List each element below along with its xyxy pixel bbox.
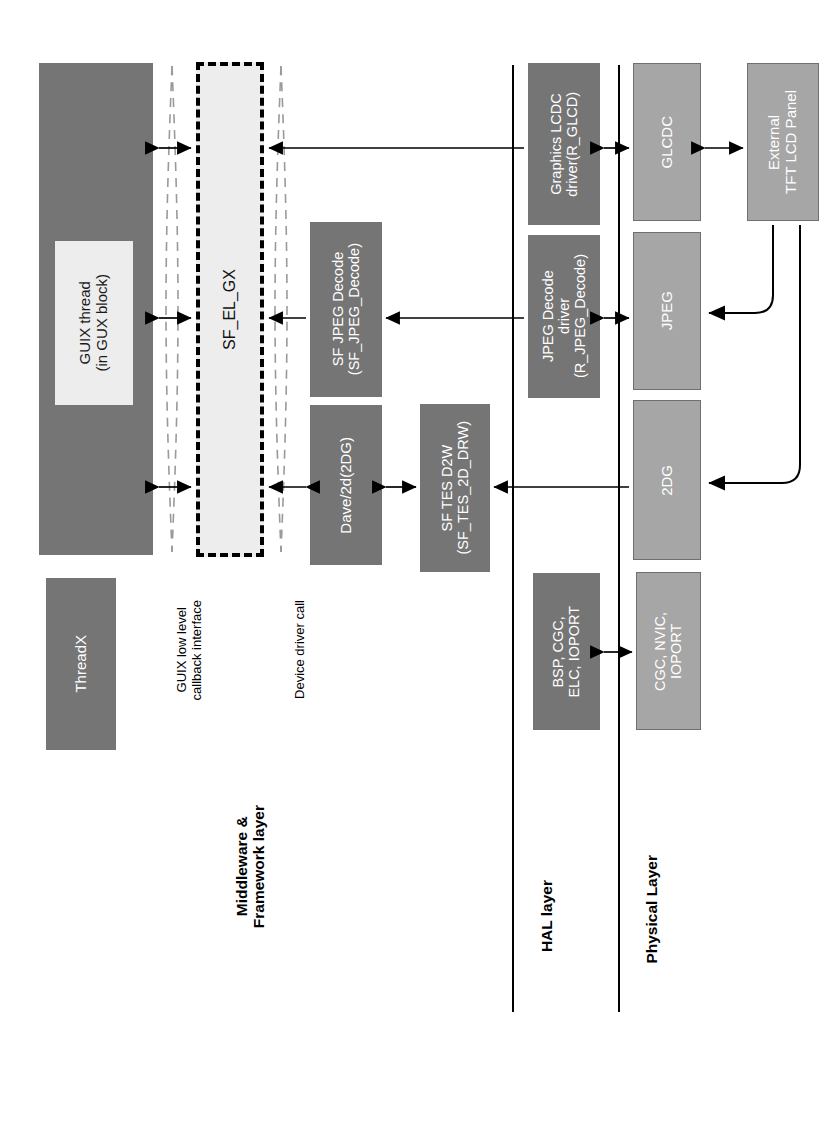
label-layer-physical: Physical Layer	[632, 855, 672, 1015]
arrow-tft-panel-to-jpeg	[709, 225, 773, 313]
block-bsp-cgc-elc-ioport: BSP, CGC, ELC, IOPORT	[533, 573, 600, 730]
block-sf-el-gx-labelwrap: SF_EL_GX	[196, 62, 264, 557]
block-sf-tes-d2w: SF TES D2W (SF_TES_2D_DRW)	[420, 404, 490, 572]
block-glcdc-label: GLCDC	[659, 116, 676, 169]
block-sf-jpeg-decode-label: SF JPEG Decode (SF_JPEG_Decode)	[330, 243, 362, 375]
block-2dg: 2DG	[633, 400, 701, 560]
block-graphics-lcdc-driver: Graphics LCDC driver(R_GLCD)	[528, 63, 600, 225]
block-jpeg: JPEG	[633, 232, 701, 390]
architecture-diagram: GUIX GUIX thread (in GUX block) SF_EL_GX…	[0, 0, 839, 1142]
block-graphics-lcdc-driver-label: Graphics LCDC driver(R_GLCD)	[548, 92, 580, 197]
block-external-tft-lcd-panel: External TFT LCD Panel	[747, 63, 819, 221]
block-cgc-nvic-ioport: CGC, NVIC, IOPORT	[636, 572, 701, 730]
block-guix-thread-label: GUIX thread (in GUX block)	[77, 274, 111, 372]
block-cgc-nvic-ioport-label: CGC, NVIC, IOPORT	[652, 612, 684, 691]
block-guix-thread: GUIX thread (in GUX block)	[55, 241, 133, 405]
divider-physical	[618, 65, 620, 1012]
block-sf-tes-d2w-label: SF TES D2W (SF_TES_2D_DRW)	[439, 421, 471, 554]
block-external-tft-lcd-panel-label: External TFT LCD Panel	[766, 90, 800, 194]
block-glcdc: GLCDC	[633, 63, 701, 221]
divider-hal	[512, 65, 514, 1012]
label-layer-hal: HAL layer	[527, 880, 567, 1015]
block-dave2d-label: Dave/2d(2DG)	[338, 437, 355, 534]
label-layer-middleware: Middleware & Framework layer	[210, 805, 290, 1015]
block-jpeg-decode-driver: JPEG Decode driver (R_JPEG_Decode)	[528, 235, 600, 398]
block-threadx-label: ThreadX	[73, 635, 90, 693]
block-2dg-label: 2DG	[659, 465, 676, 496]
block-guix-label: GUIX	[160, 291, 177, 328]
block-jpeg-label: JPEG	[659, 291, 676, 330]
arrow-tft-panel-to-2dg	[709, 225, 800, 483]
block-sf-jpeg-decode: SF JPEG Decode (SF_JPEG_Decode)	[310, 222, 382, 397]
brace-device-driver-call	[275, 66, 287, 552]
block-dave2d: Dave/2d(2DG)	[310, 405, 382, 565]
block-sf-el-gx-label: SF_EL_GX	[221, 269, 239, 350]
block-threadx: ThreadX	[46, 578, 116, 750]
label-guix-callback-interface: GUIX low level callback interface	[160, 600, 220, 800]
block-bsp-cgc-elc-ioport-label: BSP, CGC, ELC, IOPORT	[550, 606, 582, 698]
label-device-driver-call: Device driver call	[280, 600, 320, 800]
block-jpeg-decode-driver-label: JPEG Decode driver (R_JPEG_Decode)	[540, 254, 589, 378]
